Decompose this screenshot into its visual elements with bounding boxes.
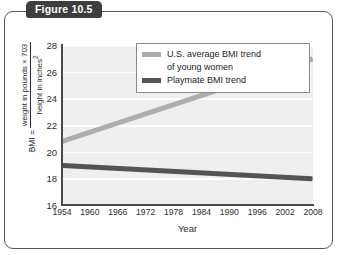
bmi-formula-numerator: weight in pounds × 703 [20, 42, 30, 129]
bmi-formula-fraction: weight in pounds × 703 height in inches2 [20, 42, 44, 129]
bmi-formula-denominator: height in inches2 [31, 53, 44, 116]
gridline [62, 152, 313, 154]
legend-label-line2: of young women [167, 62, 233, 72]
legend-swatch-playmate [142, 78, 161, 83]
x-tick-label: 1996 [248, 207, 267, 217]
y-axis-title: BMI = weight in pounds × 703 height in i… [15, 17, 49, 177]
x-tick-label: 1966 [108, 207, 127, 217]
legend-label-us-average: U.S. average BMI trend of young women [167, 48, 261, 73]
x-axis-line [61, 204, 314, 206]
x-tick-label: 2008 [303, 207, 322, 217]
x-tick-label: 1978 [164, 207, 183, 217]
denominator-text: height in inches [34, 59, 43, 115]
chart-legend: U.S. average BMI trend of young women Pl… [136, 43, 310, 93]
x-tick-label: 1960 [80, 207, 99, 217]
y-axis-title-lead: BMI = [27, 130, 37, 152]
legend-item-us-average[interactable]: U.S. average BMI trend of young women [142, 48, 304, 73]
x-tick-label: 1954 [52, 207, 71, 217]
y-axis-line [61, 44, 63, 206]
bmi-trend-chart: 28262422201816 1954196019661972197819841… [0, 0, 339, 255]
legend-label-line1: U.S. average BMI trend [167, 49, 261, 59]
x-tick-label: 2002 [276, 207, 295, 217]
figure-tab-label: Figure 10.5 [26, 1, 102, 18]
legend-swatch-us-average [142, 52, 161, 57]
x-axis-title: Year [62, 223, 313, 234]
denominator-exponent: 2 [32, 55, 39, 59]
legend-item-playmate[interactable]: Playmate BMI trend [142, 74, 304, 87]
x-tick-label: 1990 [220, 207, 239, 217]
x-tick-label: 1972 [136, 207, 155, 217]
x-tick-label: 1984 [192, 207, 211, 217]
legend-label-playmate: Playmate BMI trend [167, 74, 246, 87]
x-axis-tick-labels: 1954196019661972197819841990199620022008 [62, 207, 313, 220]
